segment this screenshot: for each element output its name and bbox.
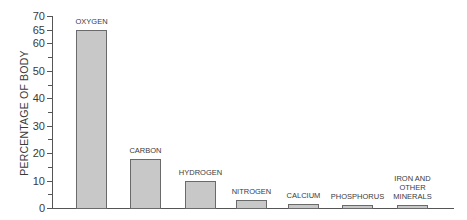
bar-nitrogen xyxy=(236,200,267,209)
y-tick-label: 65 xyxy=(33,24,45,36)
y-axis-label: PERCENTAGE OF BODY xyxy=(18,50,30,175)
y-tick-label: 20 xyxy=(33,147,45,159)
y-tick xyxy=(47,126,52,127)
bar-label: NITROGEN xyxy=(232,187,272,196)
bar-carbon xyxy=(130,159,161,209)
bar-label: IRON AND OTHER MINERALS xyxy=(393,174,431,201)
bar-calcium xyxy=(288,204,319,209)
bar-label: PHOSPHORUS xyxy=(331,192,384,201)
y-tick-label: 0 xyxy=(39,202,45,214)
y-tick xyxy=(47,30,52,31)
bar-hydrogen xyxy=(185,181,216,209)
bar-label: OXYGEN xyxy=(75,17,107,26)
y-minor-tick xyxy=(48,112,52,113)
y-minor-tick xyxy=(48,57,52,58)
y-tick xyxy=(47,71,52,72)
y-minor-tick xyxy=(48,167,52,168)
y-minor-tick xyxy=(48,85,52,86)
y-tick-label: 40 xyxy=(33,92,45,104)
y-tick xyxy=(47,208,52,209)
y-tick-label: 60 xyxy=(33,37,45,49)
y-tick-label: 70 xyxy=(33,10,45,22)
y-tick-label: 30 xyxy=(33,120,45,132)
y-tick-label: 50 xyxy=(33,65,45,77)
y-tick xyxy=(47,16,52,17)
y-minor-tick xyxy=(48,139,52,140)
y-minor-tick xyxy=(48,194,52,195)
y-axis xyxy=(52,16,53,209)
y-tick xyxy=(47,153,52,154)
y-tick xyxy=(47,181,52,182)
bar-phosphorus xyxy=(342,205,373,209)
bar-oxygen xyxy=(76,30,107,209)
bar-label: HYDROGEN xyxy=(179,168,222,177)
bar-label: CALCIUM xyxy=(287,191,321,200)
y-tick xyxy=(47,43,52,44)
bar-label: CARBON xyxy=(129,146,161,155)
bar-iron-and-other-minerals xyxy=(397,205,428,209)
chart: PERCENTAGE OF BODY 01020304050606570 OXY… xyxy=(0,0,467,220)
y-tick-label: 10 xyxy=(33,175,45,187)
y-tick xyxy=(47,98,52,99)
